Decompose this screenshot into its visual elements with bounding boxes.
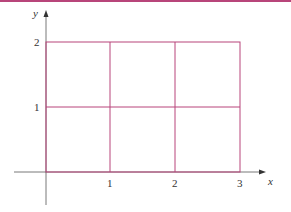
y-tick-1: 1 — [34, 101, 40, 113]
grid — [46, 42, 240, 172]
x-tick-1: 1 — [107, 177, 113, 189]
y-tick-2: 2 — [34, 36, 40, 48]
x-axis-arrow-icon — [259, 170, 266, 175]
x-axis-label: x — [267, 175, 273, 187]
y-axis-arrow-icon — [44, 10, 49, 17]
grid-diagram: y x 1 2 3 1 2 — [0, 0, 291, 212]
x-tick-3: 3 — [237, 177, 243, 189]
x-tick-2: 2 — [172, 177, 178, 189]
y-axis-label: y — [32, 7, 38, 19]
